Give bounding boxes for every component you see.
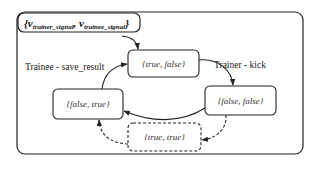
trainer-kick-label: Trainer - kick	[214, 60, 266, 70]
state-true-true: {true, true}	[128, 123, 201, 151]
trainee-save-result-label: Trainee - save_result	[25, 62, 105, 72]
close-brace: }	[124, 17, 129, 29]
var2-subscript: trainee_signal	[84, 23, 125, 31]
variables-label: {vtrainer_signal, vtrainee_signal}	[18, 13, 140, 32]
state-diagram: {vtrainer_signal, vtrainee_signal} {true…	[0, 0, 316, 175]
state-label: {false, true}	[66, 99, 110, 109]
state-label: {true, true}	[144, 132, 185, 142]
var1-subscript: trainer_signal	[33, 23, 74, 31]
state-label: {false, false}	[218, 96, 264, 106]
state-true-false: {true, false}	[128, 50, 199, 77]
state-false-false: {false, false}	[205, 86, 276, 115]
state-label: {true, false}	[142, 59, 186, 69]
state-false-true: {false, true}	[53, 89, 123, 119]
